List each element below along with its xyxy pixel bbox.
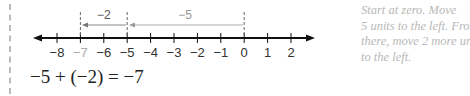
jump-label-minus-5: −5 bbox=[178, 8, 192, 22]
note-line: 5 units to the left. From bbox=[361, 19, 470, 35]
tick-label: −2 bbox=[190, 45, 205, 60]
note-line: Start at zero. Move bbox=[361, 3, 470, 19]
jump-arrow-minus-2 bbox=[82, 23, 126, 28]
tick-label: −6 bbox=[96, 45, 111, 60]
tick-label: 2 bbox=[287, 45, 294, 60]
note-line: to the left. bbox=[361, 50, 470, 66]
jump-arrow-minus-5 bbox=[129, 23, 243, 28]
tick-label: −8 bbox=[50, 45, 65, 60]
jump-label-minus-2: −2 bbox=[97, 8, 111, 22]
explanation-note: Start at zero. Move 5 units to the left.… bbox=[361, 3, 470, 65]
tick-label: −3 bbox=[167, 45, 182, 60]
number-line: −8 −7 −6 −5 −4 −3 −2 −1 0 1 2 −5 −2 bbox=[0, 0, 330, 60]
arrowhead-left-icon bbox=[82, 23, 88, 28]
tick-label: −4 bbox=[143, 45, 158, 60]
tick-label: 0 bbox=[241, 45, 248, 60]
equation: −5 + (−2) = −7 bbox=[30, 66, 144, 88]
axis-right-arrow-icon bbox=[306, 35, 315, 42]
axis-left-arrow-icon bbox=[33, 35, 42, 42]
arrowhead-left-icon bbox=[129, 23, 135, 28]
note-line: there, move 2 more uni bbox=[361, 34, 470, 50]
tick-label: −5 bbox=[120, 45, 135, 60]
tick-label: −1 bbox=[213, 45, 228, 60]
tick-label: 1 bbox=[264, 45, 271, 60]
tick-label-highlight: −7 bbox=[73, 45, 88, 60]
